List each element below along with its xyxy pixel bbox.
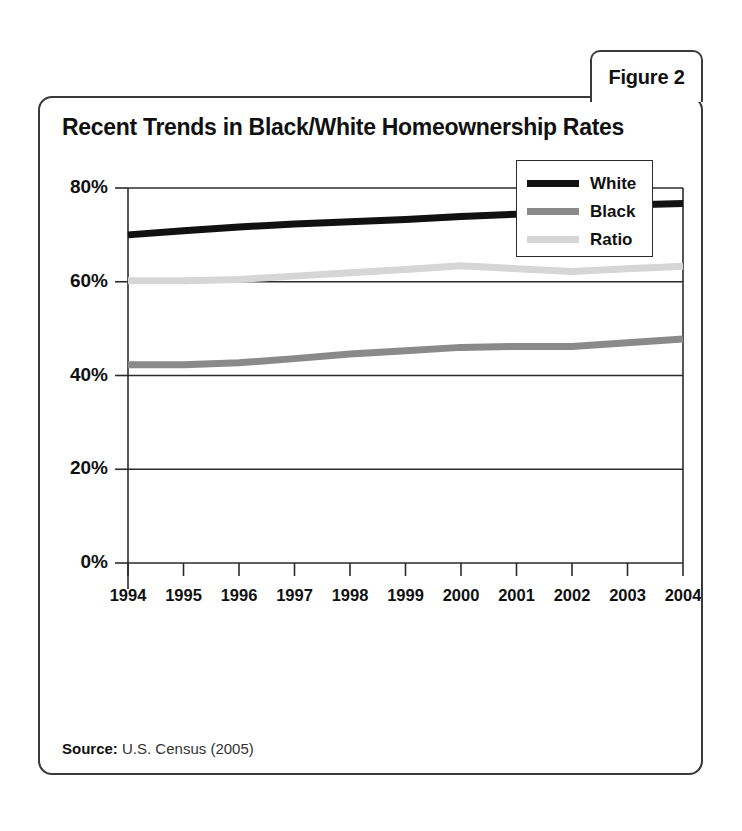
y-axis-tick-label: 20%	[70, 457, 108, 478]
x-axis-tick-label: 1998	[332, 586, 369, 604]
legend-item-ratio: Ratio	[527, 226, 642, 252]
legend-label-black: Black	[590, 203, 635, 220]
y-axis-tick-label: 80%	[70, 176, 108, 197]
legend-item-white: White	[527, 170, 642, 196]
y-axis-tick-label: 60%	[70, 270, 108, 291]
x-axis-tick-label: 1996	[221, 586, 258, 604]
x-axis-tick-label: 1997	[276, 586, 313, 604]
y-axis-tick-label: 0%	[81, 551, 109, 572]
legend-swatch-ratio	[527, 236, 579, 243]
series-line-ratio	[128, 266, 683, 281]
legend-swatch-white	[527, 180, 579, 187]
x-axis-tick-label: 2001	[498, 586, 535, 604]
figure-number-label: Figure 2	[608, 66, 684, 89]
source-label: Source:	[62, 740, 118, 757]
source-note: Source: U.S. Census (2005)	[62, 740, 254, 757]
series-line-black	[128, 339, 683, 365]
x-axis-tick-label: 2002	[554, 586, 591, 604]
x-axis-tick-label: 2004	[665, 586, 701, 604]
legend-swatch-black	[527, 208, 579, 215]
x-axis-tick-label: 1994	[110, 586, 148, 604]
chart-title: Recent Trends in Black/White Homeownersh…	[62, 114, 624, 141]
x-axis-tick-label: 1995	[165, 586, 202, 604]
figure-number-tab: Figure 2	[590, 50, 703, 102]
x-axis-tick-label: 2003	[609, 586, 646, 604]
figure-card: Recent Trends in Black/White Homeownersh…	[38, 96, 703, 775]
legend-label-ratio: Ratio	[590, 231, 633, 248]
source-value: U.S. Census (2005)	[118, 740, 254, 757]
legend-label-white: White	[590, 175, 636, 192]
legend-item-black: Black	[527, 198, 642, 224]
y-axis-tick-label: 40%	[70, 364, 108, 385]
chart-legend: White Black Ratio	[516, 160, 653, 257]
x-axis-tick-label: 1999	[387, 586, 424, 604]
x-axis-tick-label: 2000	[443, 586, 480, 604]
